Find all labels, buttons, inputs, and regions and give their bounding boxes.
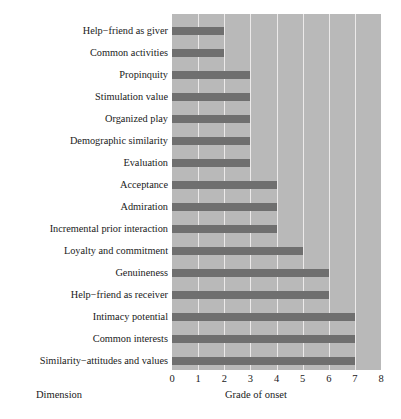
category-axis-labels: Help−friend as giverCommon activitiesPro… <box>0 14 168 370</box>
x-tick-label: 3 <box>248 372 253 386</box>
bar <box>172 49 224 57</box>
category-label: Admiration <box>0 201 168 212</box>
bar <box>172 93 250 101</box>
bar <box>172 357 355 365</box>
x-tick-label: 8 <box>378 372 383 386</box>
bar <box>172 71 250 79</box>
y-axis-title: Dimension <box>36 389 82 400</box>
bar <box>172 335 355 343</box>
category-label: Common activities <box>0 47 168 58</box>
category-label: Demographic similarity <box>0 135 168 146</box>
bar <box>172 137 250 145</box>
category-label: Similarity−attitudes and values <box>0 355 168 366</box>
category-label: Organized play <box>0 113 168 124</box>
bar <box>172 313 355 321</box>
category-label: Help−friend as receiver <box>0 289 168 300</box>
x-tick-label: 2 <box>222 372 227 386</box>
value-axis-tick-labels: 012345678 <box>172 372 381 388</box>
bar-chart-figure: Help−friend as giverCommon activitiesPro… <box>0 0 401 419</box>
bar <box>172 291 329 299</box>
category-label: Propinquity <box>0 69 168 80</box>
category-label: Genuineness <box>0 267 168 278</box>
bar <box>172 27 224 35</box>
x-axis-title: Grade of onset <box>225 389 287 400</box>
bar <box>172 181 277 189</box>
category-label: Evaluation <box>0 157 168 168</box>
x-tick-label: 0 <box>169 372 174 386</box>
x-tick-label: 5 <box>300 372 305 386</box>
bar <box>172 159 250 167</box>
category-label: Help−friend as giver <box>0 25 168 36</box>
bar <box>172 203 277 211</box>
gridline <box>355 14 356 370</box>
x-tick-label: 6 <box>326 372 331 386</box>
bar <box>172 115 250 123</box>
plot-area <box>172 14 381 370</box>
category-label: Incremental prior interaction <box>0 223 168 234</box>
category-label: Loyalty and commitment <box>0 245 168 256</box>
category-label: Intimacy potential <box>0 311 168 322</box>
x-tick-label: 4 <box>274 372 279 386</box>
x-tick-label: 7 <box>352 372 357 386</box>
bar <box>172 225 277 233</box>
category-label: Stimulation value <box>0 91 168 102</box>
category-label: Common interests <box>0 333 168 344</box>
x-tick-label: 1 <box>196 372 201 386</box>
category-label: Acceptance <box>0 179 168 190</box>
bar <box>172 247 303 255</box>
bar <box>172 269 329 277</box>
